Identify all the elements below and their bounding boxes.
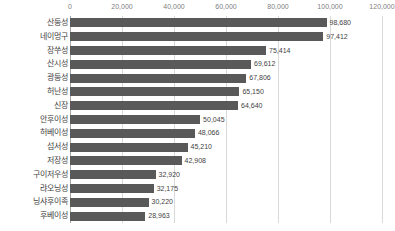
bar bbox=[70, 87, 239, 96]
bar-track: 32,920 bbox=[70, 168, 382, 182]
bar bbox=[70, 46, 266, 55]
category-label: 산시성 bbox=[47, 57, 68, 71]
bar bbox=[70, 212, 145, 221]
bar-row: 닝샤후이족30,220 bbox=[0, 195, 387, 209]
bar-row: 광둥성67,806 bbox=[0, 71, 387, 85]
x-tick-label: 0 bbox=[68, 3, 72, 10]
bar-track: 75,414 bbox=[70, 44, 382, 58]
bar-track: 42,908 bbox=[70, 154, 382, 168]
bar-row: 랴오닝성32,175 bbox=[0, 182, 387, 196]
bar-value-label: 98,680 bbox=[327, 16, 351, 30]
bar-track: 67,806 bbox=[70, 71, 382, 85]
bar-track: 69,612 bbox=[70, 57, 382, 71]
bar-row: 후베이성28,963 bbox=[0, 209, 387, 223]
bar bbox=[70, 60, 251, 69]
bar bbox=[70, 184, 154, 193]
bar-value-label: 65,150 bbox=[239, 85, 263, 99]
bar-row: 섬서성45,210 bbox=[0, 140, 387, 154]
category-label: 허베이성 bbox=[40, 126, 68, 140]
bar-value-label: 30,220 bbox=[149, 195, 173, 209]
x-tick-label: 40,000 bbox=[163, 3, 184, 10]
category-label: 닝샤후이족 bbox=[33, 195, 68, 209]
bar-value-label: 97,412 bbox=[323, 30, 347, 44]
bar-value-label: 32,920 bbox=[156, 168, 180, 182]
category-label: 광둥성 bbox=[47, 71, 68, 85]
bar-value-label: 48,066 bbox=[195, 126, 219, 140]
bar bbox=[70, 170, 156, 179]
bar-track: 50,045 bbox=[70, 113, 382, 127]
bar-track: 32,175 bbox=[70, 182, 382, 196]
x-tick-label: 60,000 bbox=[215, 3, 236, 10]
bar-track: 64,640 bbox=[70, 99, 382, 113]
category-label: 네이멍구 bbox=[40, 30, 68, 44]
bar-rows: 산둥성98,680네이멍구97,412장쑤성75,414산시성69,612광둥성… bbox=[0, 16, 387, 223]
bar-track: 98,680 bbox=[70, 16, 382, 30]
bar-row: 저장성42,908 bbox=[0, 154, 387, 168]
bar-track: 97,412 bbox=[70, 30, 382, 44]
x-tick-label: 100,000 bbox=[317, 3, 342, 10]
bar bbox=[70, 198, 149, 207]
bar-track: 45,210 bbox=[70, 140, 382, 154]
bar bbox=[70, 32, 323, 41]
bar bbox=[70, 18, 327, 27]
x-tick-label: 20,000 bbox=[111, 3, 132, 10]
bar bbox=[70, 74, 246, 83]
category-label: 구이저우성 bbox=[33, 168, 68, 182]
category-label: 안후이성 bbox=[40, 113, 68, 127]
bar-row: 구이저우성32,920 bbox=[0, 168, 387, 182]
bar-row: 장쑤성75,414 bbox=[0, 44, 387, 58]
category-label: 허난성 bbox=[47, 85, 68, 99]
category-label: 신장 bbox=[54, 99, 68, 113]
bar-row: 허난성65,150 bbox=[0, 85, 387, 99]
bar-value-label: 32,175 bbox=[154, 182, 178, 196]
category-label: 저장성 bbox=[47, 154, 68, 168]
category-label: 랴오닝성 bbox=[40, 182, 68, 196]
bar-track: 65,150 bbox=[70, 85, 382, 99]
bar-value-label: 75,414 bbox=[266, 44, 290, 58]
x-tick-label: 120,000 bbox=[369, 3, 394, 10]
bar-track: 30,220 bbox=[70, 195, 382, 209]
x-tick-label: 80,000 bbox=[267, 3, 288, 10]
bar-track: 28,963 bbox=[70, 209, 382, 223]
bar-row: 산둥성98,680 bbox=[0, 16, 387, 30]
bar-value-label: 64,640 bbox=[238, 99, 262, 113]
bar-row: 허베이성48,066 bbox=[0, 126, 387, 140]
bar-value-label: 69,612 bbox=[251, 57, 275, 71]
bar-value-label: 67,806 bbox=[246, 71, 270, 85]
category-label: 장쑤성 bbox=[47, 44, 68, 58]
bar bbox=[70, 143, 188, 152]
bar bbox=[70, 115, 200, 124]
bar-row: 신장64,640 bbox=[0, 99, 387, 113]
bar-row: 산시성69,612 bbox=[0, 57, 387, 71]
bar-value-label: 28,963 bbox=[145, 209, 169, 223]
category-label: 산둥성 bbox=[47, 16, 68, 30]
bar-row: 안후이성50,045 bbox=[0, 113, 387, 127]
category-label: 섬서성 bbox=[47, 140, 68, 154]
bar-track: 48,066 bbox=[70, 126, 382, 140]
bar-value-label: 45,210 bbox=[188, 140, 212, 154]
bar bbox=[70, 129, 195, 138]
bar-value-label: 42,908 bbox=[182, 154, 206, 168]
bar-row: 네이멍구97,412 bbox=[0, 30, 387, 44]
bar bbox=[70, 156, 182, 165]
bar bbox=[70, 101, 238, 110]
x-axis-tick-labels: 020,00040,00060,00080,000100,000120,000 bbox=[0, 0, 387, 16]
category-label: 후베이성 bbox=[40, 209, 68, 223]
bar-value-label: 50,045 bbox=[200, 113, 224, 127]
